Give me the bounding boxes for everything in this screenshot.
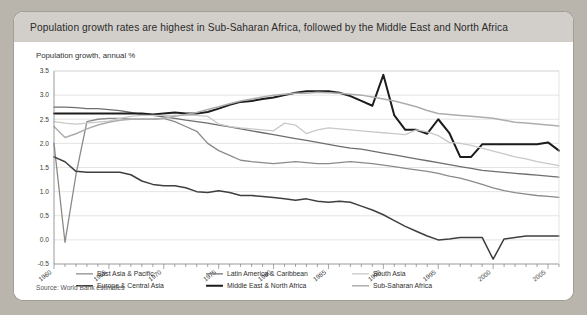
chart-legend: East Asia & PacificEurope & Central Asia… (76, 270, 432, 290)
svg-text:1985: 1985 (312, 268, 328, 283)
page-text-bleed (14, 0, 573, 12)
card-header: Population growth rates are highest in S… (14, 12, 573, 42)
svg-text:1975: 1975 (202, 268, 218, 283)
page-title: Population growth rates are highest in S… (30, 22, 508, 33)
svg-text:3.0: 3.0 (40, 91, 49, 98)
y-axis-labels: -0.50.00.51.01.52.02.53.03.5 (38, 67, 50, 267)
svg-text:2000: 2000 (476, 268, 492, 283)
line-chart: -0.50.00.51.01.52.02.53.03.5 19601965197… (14, 42, 573, 300)
chart-plot-area: -0.50.00.51.01.52.02.53.03.5 19601965197… (14, 42, 573, 300)
grid-lines (54, 71, 559, 264)
data-series (54, 75, 559, 259)
chart-card: Population growth rates are highest in S… (14, 12, 573, 300)
svg-text:1.0: 1.0 (40, 188, 49, 195)
source-note: Source: World Bank estimates (36, 284, 125, 291)
svg-text:1995: 1995 (421, 268, 437, 283)
svg-text:3.5: 3.5 (40, 67, 49, 74)
legend-label: Middle East & North Africa (227, 282, 307, 289)
svg-text:2005: 2005 (531, 268, 547, 283)
svg-text:1.5: 1.5 (40, 164, 49, 171)
svg-text:1960: 1960 (37, 268, 53, 283)
svg-text:0.5: 0.5 (40, 212, 49, 219)
legend-label: South Asia (373, 270, 406, 277)
svg-text:2.5: 2.5 (40, 116, 49, 123)
legend-label: East Asia & Pacific (97, 270, 154, 277)
legend-label: Latin America & Caribbean (227, 270, 308, 277)
svg-text:-0.5: -0.5 (38, 260, 50, 267)
svg-text:2.0: 2.0 (40, 140, 49, 147)
card-body: Population growth, annual % -0.50.00.51.… (14, 42, 573, 300)
x-axis-ticks (54, 264, 559, 269)
legend-label: Sub-Saharan Africa (373, 282, 432, 289)
svg-text:0.0: 0.0 (40, 236, 49, 243)
